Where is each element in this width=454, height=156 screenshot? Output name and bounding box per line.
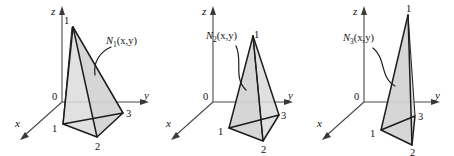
svg-text:N1(x,y): N1(x,y) bbox=[105, 35, 137, 49]
x-axis-label: x bbox=[14, 117, 20, 129]
node-1-label: 1 bbox=[370, 128, 375, 139]
shape-function-figure: 1 0 z y x 1 2 3 N1(x,y) bbox=[0, 0, 454, 156]
svg-text:N2(x,y): N2(x,y) bbox=[205, 30, 237, 44]
node-2-label: 2 bbox=[410, 147, 415, 156]
y-axis-label: y bbox=[287, 89, 293, 101]
apex-value-label: 1 bbox=[64, 15, 69, 26]
x-axis-label: x bbox=[316, 117, 322, 129]
apex-value-label: 1 bbox=[406, 3, 411, 14]
x-axis bbox=[322, 102, 364, 140]
function-args: (x,y) bbox=[354, 32, 375, 44]
svg-text:N3(x,y): N3(x,y) bbox=[342, 32, 374, 46]
function-args: (x,y) bbox=[117, 35, 138, 47]
origin-label: 0 bbox=[52, 91, 57, 102]
node-3-label: 3 bbox=[281, 110, 286, 121]
node-1-label: 1 bbox=[218, 126, 223, 137]
y-axis-label: y bbox=[143, 89, 149, 101]
function-label: N1(x,y) bbox=[105, 35, 137, 49]
panel-n2: 1 0 z y x 1 2 3 N2(x,y) bbox=[151, 0, 303, 156]
origin-label: 0 bbox=[354, 91, 359, 102]
node-3-label: 3 bbox=[418, 111, 423, 122]
panel-n1: 1 0 z y x 1 2 3 N1(x,y) bbox=[0, 0, 152, 156]
node-2-label: 2 bbox=[261, 144, 266, 155]
z-axis bbox=[210, 6, 216, 102]
callout-leader-line bbox=[373, 48, 395, 86]
function-label: N3(x,y) bbox=[342, 32, 374, 46]
node-3-label: 3 bbox=[126, 108, 131, 119]
shape-function-surface bbox=[381, 15, 412, 145]
y-axis-label: y bbox=[434, 89, 440, 101]
x-axis-label: x bbox=[165, 117, 171, 129]
function-label: N2(x,y) bbox=[205, 30, 237, 44]
origin-label: 0 bbox=[203, 91, 208, 102]
z-axis-label: z bbox=[201, 5, 207, 17]
apex-value-label: 1 bbox=[254, 29, 259, 40]
z-axis-label: z bbox=[50, 5, 56, 17]
z-axis bbox=[361, 6, 367, 102]
function-args: (x,y) bbox=[217, 30, 238, 42]
x-axis bbox=[20, 102, 62, 140]
node-1-label: 1 bbox=[52, 123, 57, 134]
z-axis-label: z bbox=[352, 5, 358, 17]
panel-n3: 1 0 z y x 1 2 3 N3(x,y) bbox=[302, 0, 454, 156]
node-2-label: 2 bbox=[95, 141, 100, 152]
x-axis bbox=[171, 102, 213, 140]
